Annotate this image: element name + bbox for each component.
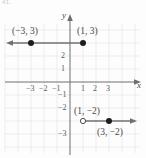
y-tick-neg2: −2 [58,103,67,112]
x-tick-neg2: −2 [39,84,48,93]
point-label-upper-left: (−3, 3) [12,26,38,36]
point-marker-closed [106,118,112,124]
y-tick-neg3: −3 [58,129,67,138]
y-axis-arrowhead [67,14,73,21]
y-tick-neg1: −1 [58,90,67,99]
graph-canvas [0,0,146,158]
point-label-upper-right: (1, 3) [77,26,98,36]
lower-ray [80,118,137,124]
x-tick-2: 2 [93,84,97,93]
x-tick-3: 3 [106,84,110,93]
x-axis-label: x [137,80,141,90]
coordinate-plane-figure: 41. [0,0,146,158]
lower-ray-arrowhead [130,118,137,124]
y-tick-1: 1 [61,64,65,73]
x-tick-neg3: −3 [26,84,35,93]
point-marker-open [80,118,85,123]
point-label-lower-right: (3, −2) [97,127,123,137]
point-marker-closed [28,40,34,46]
y-tick-2: 2 [61,51,65,60]
upper-ray-arrowhead [6,40,13,46]
point-marker-closed [80,40,86,46]
point-label-lower-left: (1, −2) [74,106,100,116]
x-tick-1: 1 [81,84,85,93]
y-axis-label: y [62,10,66,20]
